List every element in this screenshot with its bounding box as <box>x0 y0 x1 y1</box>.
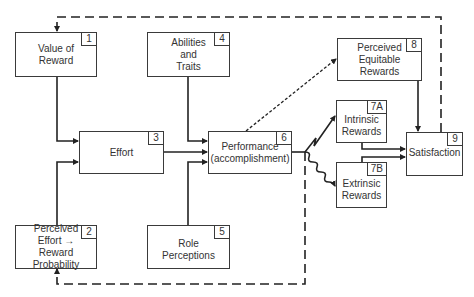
node-label: Value of Reward <box>34 43 78 67</box>
node-number: 2 <box>81 225 97 239</box>
node-performance: 6 Performance (accomplishment) <box>208 131 292 174</box>
node-number: 5 <box>214 225 230 239</box>
node-number: 4 <box>214 32 230 46</box>
node-perceived-effort-reward-probability: 2 Perceived Effort → Reward Probability <box>15 225 97 269</box>
node-number: 9 <box>447 132 463 146</box>
node-effort: 3 Effort <box>79 131 164 174</box>
node-role-perceptions: 5 Role Perceptions <box>147 225 230 269</box>
node-number: 7B <box>367 162 387 176</box>
node-abilities-and-traits: 4 Abilities and Traits <box>147 32 230 77</box>
node-number: 7A <box>367 100 387 114</box>
node-number: 6 <box>276 131 292 145</box>
node-satisfaction: 9 Satisfaction <box>406 132 463 176</box>
node-number: 8 <box>406 38 422 52</box>
node-label: Abilities and Traits <box>167 37 209 73</box>
node-extrinsic-rewards: 7B Extrinsic Rewards <box>336 162 387 208</box>
node-value-of-reward: 1 Value of Reward <box>15 32 97 77</box>
node-label: Effort <box>106 147 138 159</box>
node-number: 1 <box>81 32 97 46</box>
node-intrinsic-rewards: 7A Intrinsic Rewards <box>336 100 387 143</box>
node-label: Perceived Equitable Rewards <box>353 42 405 78</box>
node-perceived-equitable-rewards: 8 Perceived Equitable Rewards <box>337 38 422 81</box>
node-number: 3 <box>148 131 164 145</box>
